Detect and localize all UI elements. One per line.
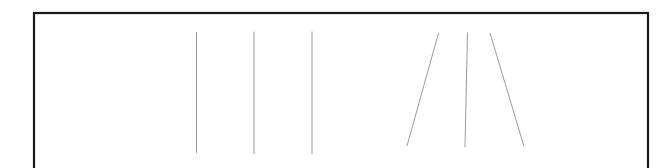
line-5 [465,33,468,148]
converging-line-group [407,33,524,148]
figure-container [0,0,671,168]
parallel-vertical-line-group [197,32,313,155]
figure-border [34,13,648,168]
line-6 [490,33,524,147]
line-stimulus-canvas [0,0,671,168]
line-4 [407,33,439,146]
